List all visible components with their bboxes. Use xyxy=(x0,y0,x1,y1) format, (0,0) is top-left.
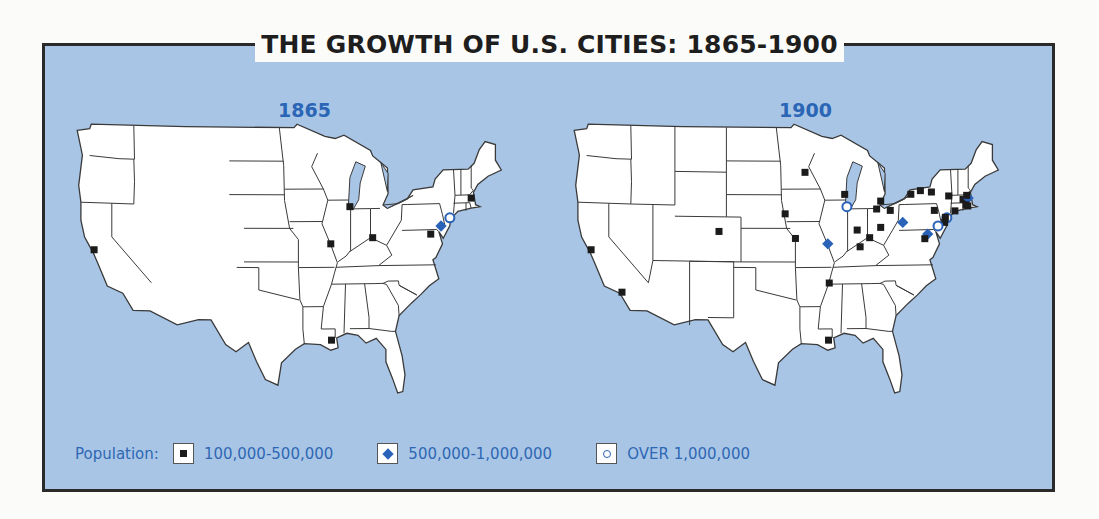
city-marker-small: Cleveland xyxy=(887,207,894,214)
city-marker-small: Minneapolis xyxy=(801,169,808,176)
legend-label: 100,000-500,000 xyxy=(204,445,333,463)
city-marker-small: Milwaukee xyxy=(841,191,848,198)
city-marker-small: New Orleans xyxy=(825,337,832,344)
city-marker-small: Chicago xyxy=(346,203,353,210)
city-marker-small: Los Angeles xyxy=(618,289,625,296)
circle-icon xyxy=(603,450,611,458)
us-landmass xyxy=(77,124,501,393)
legend-item-large: OVER 1,000,000 xyxy=(596,443,750,464)
city-marker-large: Chicago xyxy=(842,202,851,211)
city-marker-small: Omaha xyxy=(782,210,789,217)
legend-label: OVER 1,000,000 xyxy=(627,445,750,463)
city-marker-small: Indianapolis xyxy=(854,227,861,234)
state-border xyxy=(332,284,375,285)
legend-item-medium: 500,000-1,000,000 xyxy=(377,443,552,464)
us-landmass xyxy=(574,124,998,393)
city-marker-small: San Francisco xyxy=(91,246,98,253)
city-marker-small: Albany xyxy=(945,192,952,199)
city-marker-small: Syracuse xyxy=(928,189,935,196)
city-marker-small: Boston xyxy=(468,195,475,202)
map-frame: San FranciscoNew OrleansSt. LouisChicago… xyxy=(42,43,1055,492)
city-marker-small: Baltimore xyxy=(427,231,434,238)
map-title: THE GROWTH OF U.S. CITIES: 1865-1900 xyxy=(255,28,844,62)
state-border xyxy=(829,284,872,285)
city-marker-small: New Haven xyxy=(951,207,958,214)
diamond-icon xyxy=(382,448,393,459)
city-marker-small: Detroit xyxy=(877,198,884,205)
legend-label: 500,000-1,000,000 xyxy=(408,445,552,463)
map-1865: San FranciscoNew OrleansSt. LouisChicago… xyxy=(77,124,501,393)
city-marker-small: Fall River xyxy=(964,202,971,209)
legend-swatch xyxy=(596,443,617,464)
city-marker-small: Rochester xyxy=(917,187,924,194)
maps-canvas: San FranciscoNew OrleansSt. LouisChicago… xyxy=(45,46,1052,489)
map-1900: San FranciscoLos AngelesDenverOmahaKansa… xyxy=(574,124,998,393)
legend-title: Population: xyxy=(75,445,159,463)
city-marker-small: St. Louis xyxy=(327,240,334,247)
square-icon xyxy=(180,450,187,457)
city-marker-small: Lowell xyxy=(963,192,970,199)
city-marker-small: Buffalo xyxy=(907,191,914,198)
city-marker-large: Philadelphia xyxy=(934,221,943,230)
city-marker-small: Columbus xyxy=(877,224,884,231)
city-marker-large: New York xyxy=(445,213,454,222)
legend: Population: 100,000-500,000 500,000-1,00… xyxy=(75,443,794,464)
map-year-label-1900: 1900 xyxy=(779,99,832,121)
legend-swatch xyxy=(377,443,398,464)
city-marker-small: Cincinnati xyxy=(866,234,873,241)
city-marker-small: Kansas City xyxy=(792,235,799,242)
city-marker-small: Memphis xyxy=(826,280,833,287)
city-marker-small: Denver xyxy=(716,228,723,235)
title-bar: THE GROWTH OF U.S. CITIES: 1865-1900 xyxy=(0,28,1099,62)
city-marker-small: Cincinnati xyxy=(369,234,376,241)
city-marker-small: Toledo xyxy=(873,205,880,212)
map-year-label-1865: 1865 xyxy=(278,99,331,121)
legend-item-small: 100,000-500,000 xyxy=(173,443,333,464)
state-border xyxy=(675,216,727,217)
city-marker-small: San Francisco xyxy=(588,246,595,253)
city-marker-small: Louisville xyxy=(857,243,864,250)
legend-swatch xyxy=(173,443,194,464)
city-marker-small: New Orleans xyxy=(328,337,335,344)
city-marker-small: Scranton xyxy=(931,207,938,214)
state-border xyxy=(351,208,380,209)
city-marker-small: Washington xyxy=(921,235,928,242)
